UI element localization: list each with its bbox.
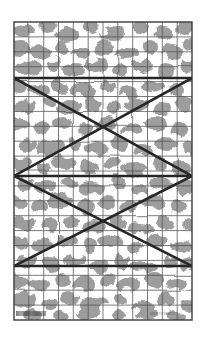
scale-bar-smudge [16,311,46,316]
survey-grid [14,22,192,320]
figure-root [0,0,215,340]
scanned-diagram [0,0,215,340]
scale-bar-smudge-secondary [150,312,176,315]
